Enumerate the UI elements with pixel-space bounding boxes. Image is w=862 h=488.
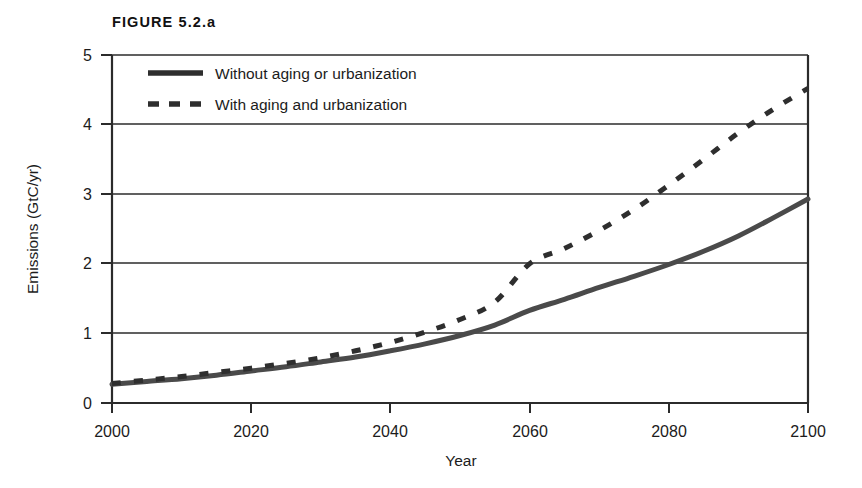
y-tick-label-0: 0 — [83, 395, 92, 412]
y-tick-marks — [101, 55, 112, 403]
y-tick-label-1: 1 — [83, 325, 92, 342]
series-with-aging-and-urbanization — [112, 88, 808, 383]
figure-container: FIGURE 5.2.a — [0, 0, 862, 488]
series-without-aging-or-urbanization — [112, 199, 808, 384]
chart-legend: Without aging or urbanization With aging… — [148, 65, 417, 113]
x-tick-marks — [112, 403, 808, 413]
x-tick-label-2080: 2080 — [651, 423, 687, 440]
y-axis-title: Emissions (GtC/yr) — [24, 164, 41, 294]
series-group — [112, 88, 808, 384]
x-tick-label-2060: 2060 — [512, 423, 548, 440]
y-tick-label-5: 5 — [83, 47, 92, 64]
y-tick-labels: 5 4 3 2 1 0 — [83, 47, 92, 412]
y-tick-label-3: 3 — [83, 186, 92, 203]
legend-label-dashed: With aging and urbanization — [215, 96, 407, 113]
x-tick-label-2020: 2020 — [233, 423, 269, 440]
legend-label-solid: Without aging or urbanization — [215, 65, 417, 82]
x-axis-title: Year — [445, 452, 476, 469]
x-tick-label-2040: 2040 — [372, 423, 408, 440]
y-tick-label-2: 2 — [83, 255, 92, 272]
x-tick-label-2100: 2100 — [790, 423, 826, 440]
x-tick-labels: 2000 2020 2040 2060 2080 2100 — [94, 423, 826, 440]
x-tick-label-2000: 2000 — [94, 423, 130, 440]
emissions-line-chart: 5 4 3 2 1 0 2000 2020 2040 2060 2080 210… — [0, 0, 862, 488]
y-tick-label-4: 4 — [83, 116, 92, 133]
